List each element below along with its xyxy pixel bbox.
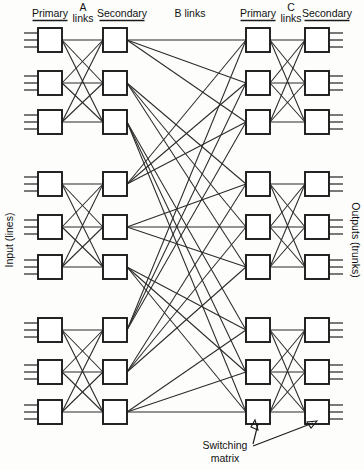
b-link: [127, 227, 246, 267]
outputs-trunks-label: Outputs (trunks): [350, 202, 362, 277]
switching-matrix-box: [103, 400, 127, 424]
b-link: [127, 267, 246, 412]
switching-matrix-box: [305, 255, 329, 279]
switching-matrix-box: [38, 28, 62, 52]
switching-matrix-box: [103, 71, 127, 95]
switching-matrix-box: [305, 215, 329, 239]
callout-arrow-right: [253, 423, 313, 446]
switching-matrix-box: [38, 110, 62, 134]
callout-line-1: Switching: [203, 439, 248, 451]
switching-matrix-box: [103, 215, 127, 239]
io-stubs-layer: [24, 33, 343, 419]
diagram-canvas: PrimaryAlinksSecondaryB linksPrimaryClin…: [0, 0, 364, 470]
header-primary-right: Primary: [240, 7, 277, 19]
header-secondary-right: Secondary: [302, 7, 353, 19]
b-link: [127, 83, 246, 330]
switching-matrix-box: [305, 71, 329, 95]
switching-matrix-box: [246, 318, 270, 342]
switching-matrix-box: [246, 110, 270, 134]
switching-matrix-box: [38, 400, 62, 424]
switching-matrix-box: [246, 172, 270, 196]
switching-matrix-box: [38, 360, 62, 384]
b-link: [127, 122, 246, 412]
switching-matrix-box: [305, 318, 329, 342]
right-side-label: Outputs (trunks): [350, 202, 362, 277]
switching-matrix-box: [246, 255, 270, 279]
switching-matrix-box: [103, 318, 127, 342]
switching-matrix-box: [38, 318, 62, 342]
switching-matrix-box: [246, 215, 270, 239]
b-link: [127, 330, 246, 412]
header-c-links-2: links: [280, 12, 301, 24]
column-headers-layer: PrimaryAlinksSecondaryB linksPrimaryClin…: [32, 1, 353, 24]
switching-matrix-box: [103, 28, 127, 52]
callout-line-2: matrix: [211, 452, 240, 464]
switching-matrix-box: [305, 110, 329, 134]
switching-matrix-box: [103, 360, 127, 384]
switching-matrix-box: [103, 172, 127, 196]
switching-matrix-box: [305, 172, 329, 196]
header-b-links: B links: [175, 7, 206, 19]
switching-matrix-box: [103, 255, 127, 279]
switching-matrix-box: [246, 71, 270, 95]
switching-matrix-boxes-layer: [38, 28, 329, 424]
left-side-label: Input (lines): [3, 213, 15, 268]
header-a-links-2: links: [72, 12, 93, 24]
b-link: [127, 40, 246, 330]
input-lines-label: Input (lines): [3, 213, 15, 268]
switching-matrix-box: [305, 360, 329, 384]
header-secondary-left: Secondary: [97, 7, 148, 19]
b-link: [127, 372, 246, 412]
switching-matrix-callout: Switching matrix: [203, 420, 317, 464]
switching-matrix-box: [246, 400, 270, 424]
switching-matrix-box: [305, 400, 329, 424]
switching-matrix-box: [246, 28, 270, 52]
header-primary-left: Primary: [32, 7, 69, 19]
switching-network-diagram: PrimaryAlinksSecondaryB linksPrimaryClin…: [0, 0, 364, 470]
b-link: [127, 184, 246, 372]
switching-matrix-box: [305, 28, 329, 52]
switching-matrix-box: [38, 71, 62, 95]
switching-matrix-box: [246, 360, 270, 384]
switching-matrix-box: [38, 255, 62, 279]
switching-matrix-box: [38, 215, 62, 239]
switching-matrix-box: [103, 110, 127, 134]
switching-matrix-box: [38, 172, 62, 196]
